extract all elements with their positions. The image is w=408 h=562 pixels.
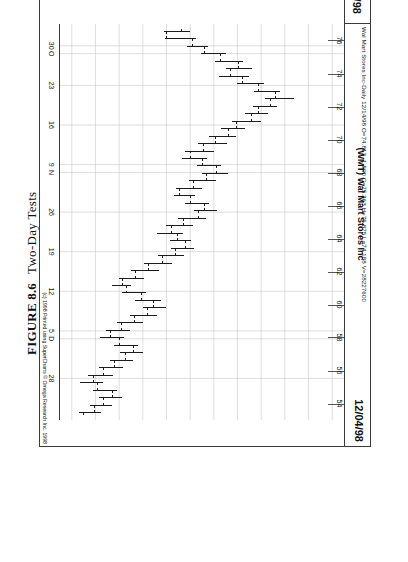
ohlc-bar — [189, 178, 216, 183]
ohlc-bar — [99, 395, 122, 400]
chart-end-date: 12/04/98 — [353, 399, 365, 442]
ohlc-bar — [119, 276, 144, 281]
ohlc-bar — [157, 231, 183, 236]
date-tick-label: 16 — [48, 121, 55, 129]
date-tick-label: 5 — [48, 329, 55, 333]
ohlc-bar — [201, 51, 226, 56]
chart-symbol-title: (WMT) Wal Mart Stores Inc — [356, 147, 366, 260]
date-tick-label: D — [48, 336, 55, 341]
date-tick-label: N — [48, 170, 55, 175]
ohlc-bar — [131, 268, 159, 273]
date-tick-label: 30 — [48, 42, 55, 50]
chart-copyright: (c) 1998 Printed using SuperCharts © Ome… — [42, 293, 48, 444]
ohlc-bar — [143, 305, 167, 310]
ohlc-bar — [110, 358, 134, 363]
figure-title: Two-Day Tests — [24, 192, 40, 274]
date-tick-label: O — [48, 51, 55, 56]
ohlc-bar — [253, 104, 277, 109]
ohlc-bar — [176, 186, 202, 191]
ohlc-bar — [88, 373, 113, 378]
ohlc-bar — [80, 380, 102, 385]
ohlc-bar — [144, 261, 172, 266]
date-tick-label: 28 — [48, 375, 55, 383]
ohlc-bar — [185, 201, 209, 206]
ohlc-bar — [178, 216, 205, 221]
ohlc-bar — [90, 403, 112, 408]
ohlc-bar — [79, 410, 101, 415]
ohlc-bar — [158, 253, 184, 258]
date-tick-label: 23 — [48, 81, 55, 89]
ohlc-bar — [226, 66, 252, 71]
ohlc-bar — [197, 163, 221, 168]
ohlc-bar — [130, 313, 157, 318]
ohlc-bar — [198, 141, 226, 146]
ohlc-bar — [135, 298, 161, 303]
date-tick-label: 26 — [48, 208, 55, 216]
ohlc-bar — [187, 44, 208, 49]
ohlc-bar — [170, 238, 191, 243]
ohlc-bar — [232, 119, 262, 124]
ohlc-bar — [114, 343, 138, 348]
chart-rotation-wrapper: 09/22/98 Wal Mart Stores Inc-Daily 12/14… — [39, 0, 371, 447]
ohlc-bar — [209, 134, 236, 139]
ohlc-bar — [106, 328, 130, 333]
date-tick-label: 9 — [48, 163, 55, 167]
chart-start-date: 09/22/98 — [345, 0, 370, 24]
ohlc-bar — [245, 111, 269, 116]
ohlc-bar — [185, 149, 213, 154]
figure-number: FIGURE 8.6 — [24, 283, 40, 355]
ohlc-bar — [219, 74, 250, 79]
date-tick-label: 19 — [48, 248, 55, 256]
ohlc-bar — [166, 223, 192, 228]
ohlc-bar — [254, 89, 280, 94]
chart-frame: 09/22/98 Wal Mart Stores Inc-Daily 12/14… — [39, 0, 371, 447]
ohlc-bar — [112, 283, 131, 288]
ohlc-bar — [164, 29, 190, 34]
ohlc-bar — [174, 193, 195, 198]
ohlc-bar — [117, 320, 143, 325]
ohlc-bar — [202, 171, 228, 176]
ohlc-plot-area — [60, 24, 344, 420]
ohlc-bar — [265, 96, 294, 101]
ohlc-bar — [165, 36, 196, 41]
ohlc-bar — [93, 388, 117, 393]
chart-header: 09/22/98 Wal Mart Stores Inc-Daily 12/14… — [344, 0, 370, 446]
ohlc-svg — [60, 24, 344, 420]
ohlc-bar — [221, 126, 245, 131]
ohlc-bar — [215, 59, 243, 64]
ohlc-bar — [120, 350, 142, 355]
date-tick-label: 12 — [48, 287, 55, 295]
ohlc-bar — [182, 156, 207, 161]
ohlc-bar — [100, 335, 124, 340]
